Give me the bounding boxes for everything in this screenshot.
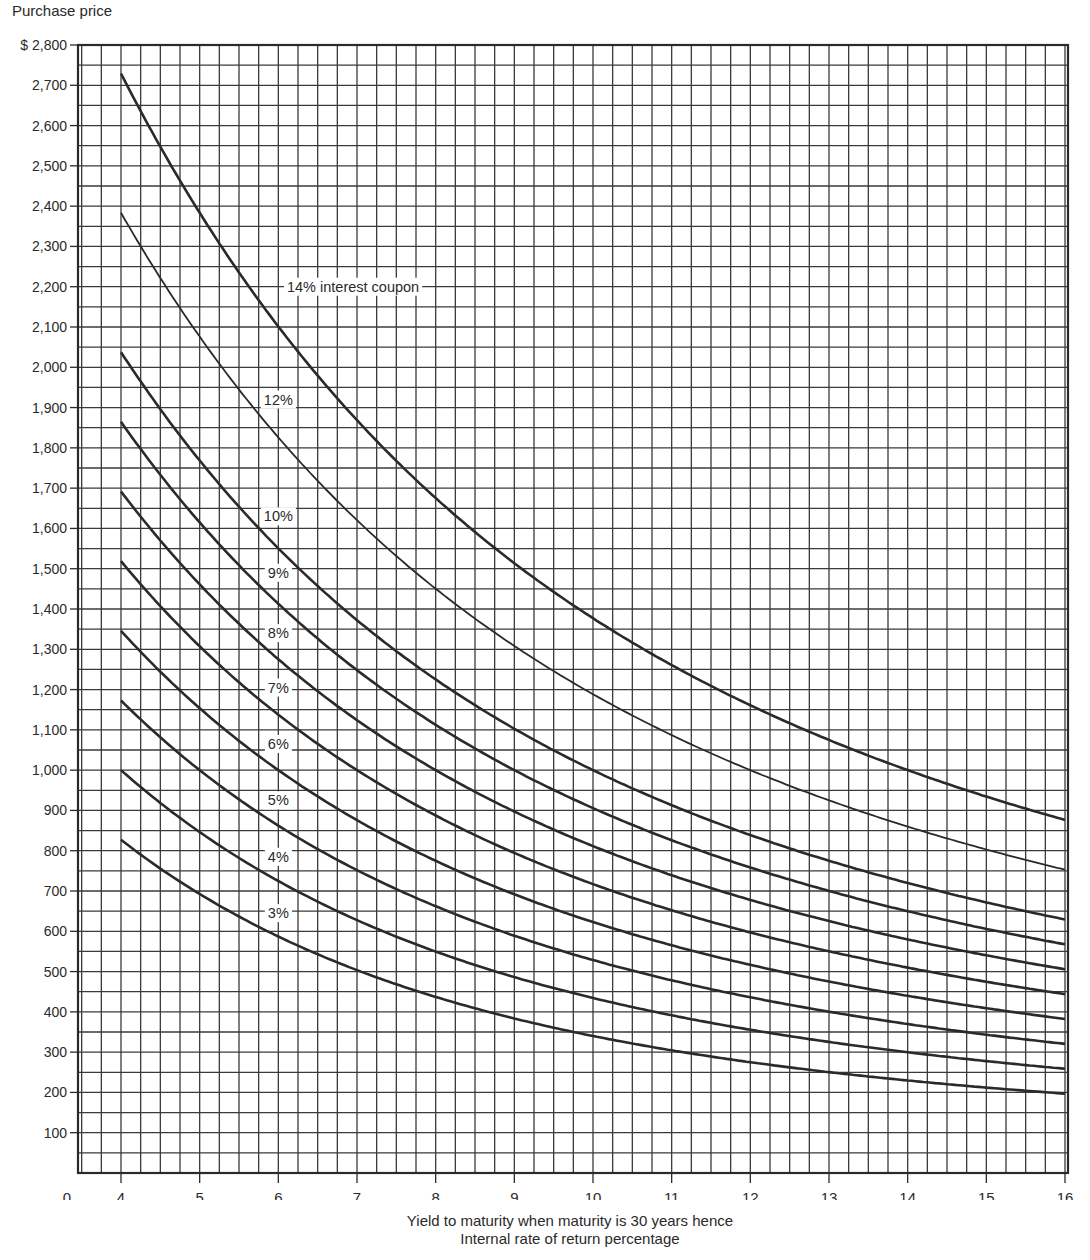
y-tick-label: 1,800 [32, 440, 67, 456]
y-tick-label: 500 [44, 964, 68, 980]
curve-label-14: 14% interest coupon [287, 279, 419, 295]
x-axis-title: Yield to maturity when maturity is 30 ye… [330, 1212, 810, 1230]
x-tick-label: 8 [431, 1189, 439, 1200]
curve-label-10: 10% [264, 508, 293, 524]
bond-price-chart: 1002003004005006007008009001,0001,1001,2… [0, 0, 1090, 1200]
y-tick-label: 1,900 [32, 400, 67, 416]
x-tick-label: 10 [585, 1189, 602, 1200]
x-tick-label: 16 [1057, 1189, 1074, 1200]
curve-label-9: 9% [268, 565, 289, 581]
y-tick-label: 2,700 [32, 77, 67, 93]
x-tick-label: 14 [899, 1189, 916, 1200]
x-axis-subtitle: Internal rate of return percentage [330, 1230, 810, 1248]
y-tick-label: 600 [44, 923, 68, 939]
curve-label-5: 5% [268, 792, 289, 808]
x-tick-label: 12 [742, 1189, 759, 1200]
y-tick-label: 2,300 [32, 238, 67, 254]
x-tick-label: 11 [664, 1189, 680, 1200]
y-tick-label: 1,300 [32, 641, 67, 657]
y-tick-label: 2,200 [32, 279, 67, 295]
x-axis: 045678910111213141516 [63, 1173, 1074, 1200]
y-tick-label: 1,400 [32, 601, 67, 617]
y-tick-label: 800 [44, 843, 68, 859]
x-tick-label: 13 [821, 1189, 838, 1200]
y-tick-label: 100 [44, 1125, 68, 1141]
y-tick-label: 2,400 [32, 198, 67, 214]
y-tick-label: 200 [44, 1084, 68, 1100]
curve-label-6: 6% [268, 736, 289, 752]
y-tick-label: 1,200 [32, 682, 67, 698]
curve-label-4: 4% [268, 849, 289, 865]
chart-grid [78, 45, 1068, 1173]
curve-label-8: 8% [268, 625, 289, 641]
y-tick-label: $ 2,800 [20, 37, 67, 53]
y-tick-label: 2,100 [32, 319, 67, 335]
curve-labels: 14% interest coupon12%10%9%8%7%6%5%4%3% [261, 278, 422, 922]
curve-label-12: 12% [264, 392, 293, 408]
y-axis: 1002003004005006007008009001,0001,1001,2… [20, 37, 78, 1141]
y-tick-label: 1,100 [32, 722, 67, 738]
y-tick-label: 900 [44, 802, 68, 818]
curve-label-3: 3% [268, 905, 289, 921]
y-tick-label: 400 [44, 1004, 68, 1020]
y-tick-label: 700 [44, 883, 68, 899]
y-tick-label: 1,700 [32, 480, 67, 496]
x-tick-label: 7 [353, 1189, 361, 1200]
y-tick-label: 2,000 [32, 359, 67, 375]
y-tick-label: 1,500 [32, 561, 67, 577]
y-tick-label: 1,000 [32, 762, 67, 778]
y-tick-label: 2,500 [32, 158, 67, 174]
x-tick-label: 6 [274, 1189, 282, 1200]
y-tick-label: 1,600 [32, 520, 67, 536]
x-tick-label-origin: 0 [63, 1189, 71, 1200]
x-tick-label: 4 [117, 1189, 125, 1200]
x-tick-label: 15 [978, 1189, 995, 1200]
x-tick-label: 9 [510, 1189, 518, 1200]
x-tick-label: 5 [195, 1189, 203, 1200]
y-tick-label: 300 [44, 1044, 68, 1060]
curve-label-7: 7% [268, 680, 289, 696]
y-tick-label: 2,600 [32, 118, 67, 134]
